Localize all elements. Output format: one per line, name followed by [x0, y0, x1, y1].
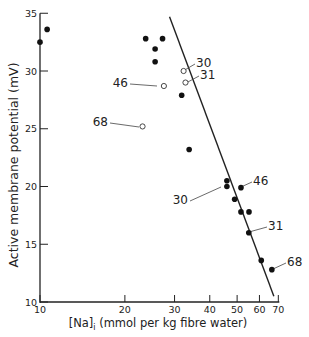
regression-line — [170, 17, 274, 297]
annotation-leader — [110, 123, 139, 127]
y-tick-label: 15 — [25, 239, 37, 250]
annotation-leader — [130, 84, 157, 86]
filled-point — [152, 59, 158, 65]
annotation-leader — [273, 263, 286, 269]
filled-point — [179, 92, 185, 98]
x-tick-label: 20 — [119, 304, 131, 315]
annotation-label: 68 — [93, 115, 108, 129]
filled-point — [152, 46, 158, 52]
y-tick-label: 25 — [25, 123, 37, 134]
open-point — [140, 124, 145, 129]
y-tick-label: 30 — [25, 66, 37, 77]
filled-point — [246, 230, 252, 236]
filled-point — [160, 36, 166, 42]
open-point — [161, 83, 166, 88]
filled-point — [258, 258, 264, 264]
data-points — [37, 27, 274, 273]
annotation-leader — [190, 187, 221, 201]
annotations: 3031466846303168 — [93, 56, 303, 269]
x-tick-label: 70 — [272, 304, 284, 315]
open-point — [181, 68, 186, 73]
filled-point — [44, 27, 50, 33]
x-tick-label: 10 — [34, 304, 46, 315]
filled-point — [224, 184, 230, 190]
filled-point — [269, 267, 275, 273]
x-axis-label: [Na]i (mmol per kg fibre water) — [69, 316, 248, 332]
filled-point — [246, 209, 252, 215]
annotation-label: 31 — [200, 68, 215, 82]
filled-point — [238, 209, 244, 215]
annotation-label: 68 — [287, 255, 302, 269]
filled-point — [37, 39, 43, 45]
x-tick-label: 30 — [169, 304, 181, 315]
y-tick-label: 35 — [25, 8, 37, 19]
annotation-label: 46 — [113, 76, 128, 90]
filled-point — [186, 147, 192, 153]
annotation-label: 30 — [173, 193, 188, 207]
fit-line — [170, 17, 274, 297]
y-axis-label: Active membrane potential (mV) — [6, 62, 21, 267]
annotation-label: 46 — [253, 174, 268, 188]
filled-point — [232, 196, 238, 202]
filled-point — [143, 36, 149, 42]
y-tick-label: 20 — [25, 181, 37, 192]
axes: 10152025303510203040506070 — [25, 8, 284, 315]
scatter-chart: 10152025303510203040506070 3031466846303… — [0, 0, 309, 337]
x-tick-label: 40 — [204, 304, 216, 315]
x-tick-label: 50 — [231, 304, 243, 315]
annotation-leader — [249, 227, 267, 232]
open-point — [183, 80, 188, 85]
filled-point — [238, 185, 244, 191]
filled-point — [224, 178, 230, 184]
annotation-label: 31 — [268, 219, 283, 233]
x-tick-label: 60 — [253, 304, 265, 315]
